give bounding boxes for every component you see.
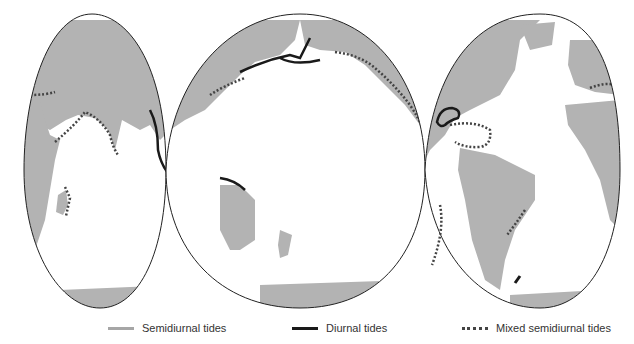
diurnal-line-swatch — [292, 327, 318, 330]
legend-item-diurnal: Diurnal tides — [292, 318, 387, 338]
legend-item-mixed: Mixed semidiurnal tides — [462, 318, 611, 338]
legend: Semidiurnal tides Diurnal tides Mixed se… — [0, 318, 634, 338]
legend-label: Diurnal tides — [326, 322, 387, 334]
semidiurnal-line-swatch — [108, 327, 134, 330]
legend-item-semidiurnal: Semidiurnal tides — [108, 318, 226, 338]
lobe-atlantic — [420, 0, 634, 312]
land-australia-east — [220, 185, 255, 250]
world-tide-map — [0, 0, 634, 312]
legend-label: Mixed semidiurnal tides — [496, 322, 611, 334]
mixed-line-swatch — [462, 327, 488, 330]
lobe-pacific — [160, 0, 430, 312]
legend-label: Semidiurnal tides — [142, 322, 226, 334]
